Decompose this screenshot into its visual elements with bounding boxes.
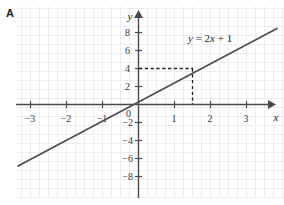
y-tick-label: 4 [125,63,130,74]
x-tick-label: 1 [172,113,177,124]
coordinate-plot: x y −3 −2 −1 1 2 3 [0,0,284,205]
x-tick-label: 2 [208,113,213,124]
line-series-y-equals-2x-plus-1 [18,29,277,167]
x-tick-label: −3 [25,113,36,124]
equation-equals: = 2 [193,32,210,44]
y-tick-label: 2 [125,81,130,92]
y-tick-label: −8 [122,171,133,182]
figure-panel: A x y −3 −2 −1 1 2 [0,0,284,205]
y-axis-label: y [127,10,133,22]
x-axis [16,100,276,109]
equation-plus-one: + 1 [215,32,232,44]
y-tick-label: −4 [122,135,133,146]
x-axis-arrow-icon [268,100,276,109]
y-tick-label: 6 [125,45,130,56]
x-axis-label: x [273,111,279,123]
origin-label: 0 [126,108,131,119]
dashed-guide-lines [139,69,193,105]
x-tick-label: −2 [61,113,72,124]
y-tick-label: 8 [125,27,130,38]
equation-annotation: y = 2x + 1 [187,32,232,44]
y-tick-label: −6 [122,153,133,164]
x-tick-label: 3 [244,113,249,124]
y-axis-arrow-icon [134,10,143,18]
